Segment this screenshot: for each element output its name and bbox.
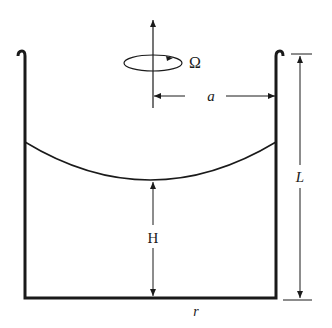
radial-coordinate-label: r (193, 304, 199, 319)
free-surface-curve (25, 142, 276, 180)
left-wall (18, 51, 283, 298)
radius-dimension: a (154, 88, 275, 104)
container (18, 51, 283, 298)
container-height-label: L (295, 169, 304, 185)
height-center-dimension: H (148, 182, 159, 296)
rotating-container-diagram: Ω a H L r (0, 0, 332, 328)
container-height-dimension: L (283, 54, 312, 300)
radius-label: a (207, 88, 215, 104)
omega-label: Ω (189, 54, 201, 71)
height-label: H (148, 230, 159, 246)
rotation-axis: Ω (124, 20, 201, 108)
